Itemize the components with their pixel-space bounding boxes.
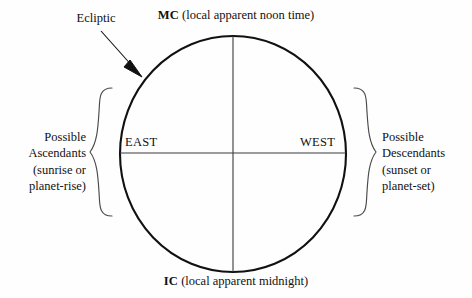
ascendants-line-3: (sunrise or (0, 162, 86, 178)
descendants-line-2: Descendants (382, 145, 472, 161)
ascendants-line-1: Possible (0, 129, 86, 145)
possible-descendants-label: Possible Descendants (sunset or planet-s… (382, 129, 472, 194)
east-label: EAST (125, 135, 157, 150)
ascendants-line-4: planet-rise) (0, 178, 86, 194)
left-curly-brace-icon (90, 88, 112, 216)
descendants-line-3: (sunset or (382, 162, 472, 178)
ecliptic-label: Ecliptic (60, 11, 132, 26)
ic-caption: IC (local apparent midnight) (0, 274, 472, 289)
ic-code: IC (164, 274, 178, 288)
mc-description: (local apparent noon time) (179, 8, 314, 22)
west-label: WEST (300, 135, 335, 150)
ecliptic-diagram: MC (local apparent noon time) IC (local … (0, 0, 472, 298)
ascendants-line-2: Ascendants (0, 145, 86, 161)
ecliptic-pointer-arrow (101, 31, 142, 77)
mc-code: MC (158, 8, 179, 22)
descendants-line-1: Possible (382, 129, 472, 145)
possible-ascendants-label: Possible Ascendants (sunrise or planet-r… (0, 129, 86, 194)
ic-description: (local apparent midnight) (178, 274, 308, 288)
descendants-line-4: planet-set) (382, 178, 472, 194)
right-curly-brace-icon (354, 88, 376, 216)
